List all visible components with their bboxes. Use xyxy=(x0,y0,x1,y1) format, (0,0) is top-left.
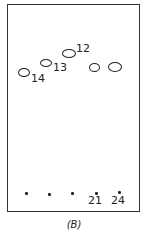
spot-12 xyxy=(62,49,76,58)
spot-14-label: 14 xyxy=(31,73,45,84)
origin-dot-3 xyxy=(71,192,74,195)
spot-lane-5 xyxy=(108,62,122,72)
tlc-plate xyxy=(7,4,140,212)
spot-13 xyxy=(40,59,52,67)
spot-lane-4 xyxy=(89,63,100,72)
origin-dot-2 xyxy=(48,193,51,196)
origin-dot-1 xyxy=(25,192,28,195)
spot-12-label: 12 xyxy=(76,43,90,54)
spot-14 xyxy=(18,68,30,77)
figure-caption: (B) xyxy=(0,219,148,230)
spot-13-label: 13 xyxy=(53,62,67,73)
lane-21-label: 21 xyxy=(88,195,102,206)
lane-24-label: 24 xyxy=(111,195,125,206)
